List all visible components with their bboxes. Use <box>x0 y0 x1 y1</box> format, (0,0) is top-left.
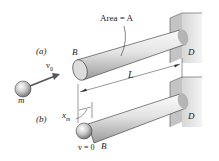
length-label: L <box>128 70 134 80</box>
area-label: Area = A <box>100 14 133 23</box>
mass-ball-at-rest <box>76 123 92 139</box>
dimension-displacement <box>76 102 92 119</box>
case-b-label: (b) <box>36 115 47 124</box>
end-b-top-label: B <box>72 48 78 57</box>
velocity-arrow-icon <box>52 73 60 80</box>
displacement-label: xm <box>62 111 70 122</box>
initial-velocity-label: v0 <box>46 62 53 72</box>
end-b-bottom-label: B <box>101 142 107 151</box>
mass-ball-moving <box>15 73 60 97</box>
end-d-top-label: D <box>188 48 195 57</box>
final-velocity-label: v = 0 <box>78 144 95 152</box>
impact-rod-diagram <box>0 0 219 161</box>
case-a-label: (a) <box>36 47 47 56</box>
end-d-bottom-label: D <box>188 112 195 121</box>
mass-label: m <box>18 96 25 105</box>
